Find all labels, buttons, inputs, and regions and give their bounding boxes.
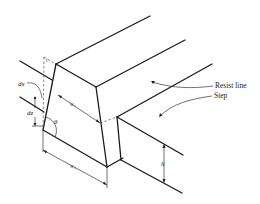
- w2-dimension: w₂: [43, 130, 107, 188]
- step: [20, 61, 212, 193]
- resist-line-callout: Resist line: [151, 81, 247, 90]
- theta-label: θ: [54, 118, 58, 126]
- h-label: h: [161, 160, 165, 168]
- dx-annotation: dx: [18, 80, 42, 98]
- theta-annotation: θ: [45, 117, 58, 137]
- diagram-canvas: t dx dz θ w₁ w₂ h: [0, 0, 260, 204]
- t-label: t: [46, 57, 48, 63]
- w1-label: w₁: [70, 101, 76, 107]
- resist-line-label: Resist line: [215, 81, 247, 90]
- resist-step-diagram: t dx dz θ w₁ w₂ h: [0, 0, 260, 204]
- step-label: Step: [214, 91, 228, 100]
- dz-label: dz: [27, 109, 34, 117]
- w1-dimension: w₁: [58, 95, 100, 123]
- dx-label: dx: [18, 80, 26, 88]
- h-dimension: h: [161, 144, 166, 183]
- w2-label: w₂: [70, 163, 76, 169]
- step-callout: Step: [159, 91, 228, 117]
